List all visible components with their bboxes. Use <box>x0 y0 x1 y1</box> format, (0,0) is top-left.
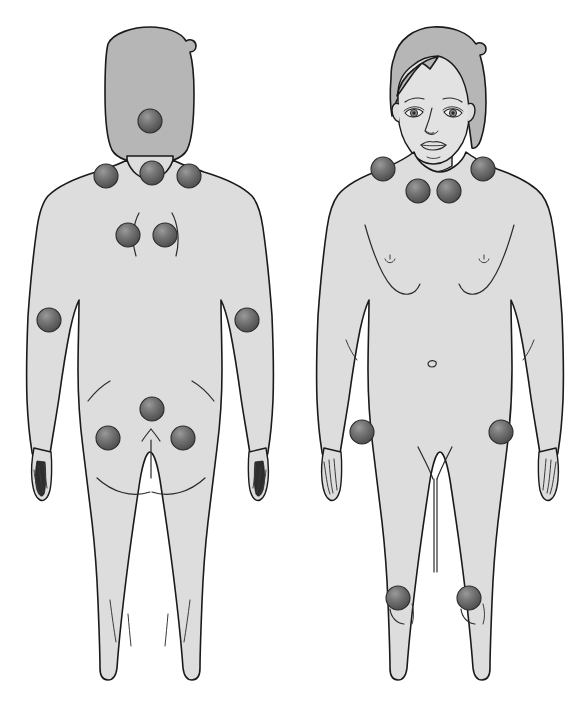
marker-knee-medial-right[interactable] <box>457 586 481 610</box>
marker-second-rib-right[interactable] <box>437 179 461 203</box>
tender-points-diagram <box>0 0 575 703</box>
marker-trapezius-left[interactable] <box>94 164 118 188</box>
hand-anterior-right <box>538 448 558 501</box>
marker-gluteal-left[interactable] <box>96 426 120 450</box>
knee-line-right-inner <box>165 614 168 646</box>
marker-lateral-epicondyle-left[interactable] <box>37 308 61 332</box>
back-of-head <box>105 27 196 163</box>
marker-occiput[interactable] <box>138 109 162 133</box>
hand-posterior-right <box>248 448 268 501</box>
knee-line-left-inner <box>128 614 131 646</box>
marker-low-cervical-center[interactable] <box>140 161 164 185</box>
marker-supraspinatus-left[interactable] <box>116 223 140 247</box>
marker-trapezius-upper-left[interactable] <box>371 157 395 181</box>
ear-left <box>392 103 399 122</box>
figure-posterior <box>27 27 274 680</box>
figure-anterior <box>317 27 564 680</box>
marker-greater-trochanter-left[interactable] <box>350 420 374 444</box>
marker-supraspinatus-right[interactable] <box>153 223 177 247</box>
marker-lateral-epicondyle-right[interactable] <box>235 308 259 332</box>
marker-greater-trochanter-right[interactable] <box>489 420 513 444</box>
hand-anterior-left <box>322 448 342 501</box>
hand-posterior-left <box>32 448 52 501</box>
marker-trapezius-upper-right[interactable] <box>471 157 495 181</box>
marker-knee-medial-left[interactable] <box>386 586 410 610</box>
inner-thigh-gap <box>434 479 437 572</box>
marker-second-rib-left[interactable] <box>406 179 430 203</box>
marker-sacrum[interactable] <box>140 397 164 421</box>
marker-gluteal-right[interactable] <box>171 426 195 450</box>
body-anterior <box>317 152 564 680</box>
marker-trapezius-right[interactable] <box>177 164 201 188</box>
